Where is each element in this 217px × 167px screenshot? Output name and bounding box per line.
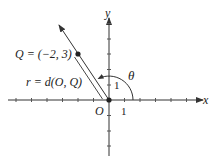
x-axis-label: x: [202, 93, 209, 107]
origin-label: O: [95, 104, 104, 118]
point-q: [75, 51, 80, 56]
distance-label: r = d(O, Q): [26, 75, 82, 89]
x-axis: [8, 98, 203, 102]
x-unit-label: 1: [121, 105, 127, 117]
origin-point: [106, 97, 111, 102]
y-unit-label: 1: [114, 79, 120, 91]
y-axis: [107, 18, 111, 156]
polar-diagram: y x O 1 1 Q = (−2, 3) r = d(O, Q) θ: [0, 0, 217, 167]
angle-theta-label: θ: [128, 68, 135, 83]
y-axis-label: y: [104, 6, 111, 20]
point-q-label: Q = (−2, 3): [15, 47, 72, 61]
